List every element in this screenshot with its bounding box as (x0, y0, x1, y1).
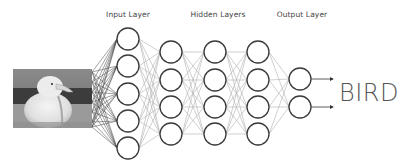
hidden-2-node (204, 123, 226, 145)
hidden-3-node (247, 123, 269, 145)
hidden-3-node (247, 41, 269, 63)
connection-edge (139, 80, 160, 148)
hidden-1-node (160, 69, 182, 91)
input-image-edges (92, 39, 117, 148)
hidden-3-node (247, 96, 269, 118)
input-node (117, 83, 139, 105)
seagull-image (13, 69, 92, 128)
input-node (117, 28, 139, 50)
hidden-1-node (160, 96, 182, 118)
connection-edge (269, 52, 289, 79)
connection-edge (139, 134, 160, 148)
input-node (117, 110, 139, 132)
input-layer-label: Input Layer (106, 10, 150, 19)
image-input-edge (92, 92, 117, 148)
hidden-1-node (160, 123, 182, 145)
hidden-2-node (204, 69, 226, 91)
hidden-2-node (204, 96, 226, 118)
output-arrows (311, 79, 333, 107)
hidden-1-node (160, 41, 182, 63)
hidden-2-node (204, 41, 226, 63)
image-input-edge (92, 122, 117, 148)
input-node (117, 137, 139, 159)
input-node (117, 55, 139, 77)
output-layer-label: Output Layer (277, 10, 328, 19)
output-node (289, 96, 311, 118)
connection-edge (269, 79, 289, 134)
hidden-3-node (247, 69, 269, 91)
prediction-label: BIRD (339, 79, 399, 107)
image-input-edge (92, 102, 117, 148)
network-nodes (117, 28, 311, 159)
hidden-layers-label: Hidden Layers (190, 10, 245, 19)
connection-edge (269, 107, 289, 134)
output-node (289, 68, 311, 90)
